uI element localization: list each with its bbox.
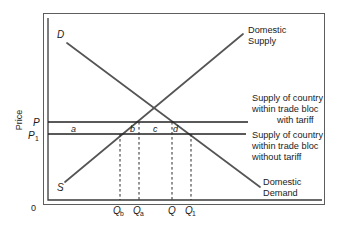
quantity-label-qa-sub: a xyxy=(140,210,144,217)
annotation-domestic-supply: Domestic Supply xyxy=(248,25,287,46)
annotation-domestic-demand-line1: Domestic xyxy=(263,177,302,187)
quantity-label-qb: Q b xyxy=(113,205,124,217)
demand-curve-label: D xyxy=(57,29,64,40)
price-label-p1-main: P xyxy=(28,130,35,141)
region-label-b: b xyxy=(130,124,135,134)
domestic-demand-curve xyxy=(67,43,260,187)
annotation-supply-with-tariff-line3: with tariff xyxy=(276,115,314,125)
origin-label: 0 xyxy=(31,203,36,213)
price-label-p: P xyxy=(33,117,40,128)
region-label-a: a xyxy=(71,124,76,134)
quantity-label-qb-sub: b xyxy=(120,210,124,217)
quantity-label-q: Q xyxy=(168,205,176,216)
annotation-supply-without-tariff: Supply of country within trade bloc with… xyxy=(251,130,323,162)
quantity-label-qa: Q a xyxy=(133,205,144,217)
annotation-supply-with-tariff: Supply of country within trade bloc with… xyxy=(251,93,323,125)
y-axis-label: Price xyxy=(14,110,24,131)
annotation-supply-without-tariff-line3: without tariff xyxy=(251,152,302,162)
annotation-domestic-demand: Domestic Demand xyxy=(263,177,302,198)
annotation-supply-with-tariff-line2: within trade bloc xyxy=(251,104,319,114)
domestic-supply-curve xyxy=(65,34,243,182)
quantity-label-q1: Q 1 xyxy=(185,205,196,217)
tariff-diagram-svg: Price 0 P P 1 Q b Q a Q Q 1 D S a b c d xyxy=(0,0,346,233)
diagram-canvas: Price 0 P P 1 Q b Q a Q Q 1 D S a b c d xyxy=(0,0,346,233)
annotation-domestic-supply-line1: Domestic xyxy=(248,25,287,35)
supply-curve-label: S xyxy=(57,182,64,193)
annotation-supply-without-tariff-line2: within trade bloc xyxy=(251,141,319,151)
quantity-label-q1-sub: 1 xyxy=(192,210,196,217)
annotation-domestic-supply-line2: Supply xyxy=(248,36,276,46)
region-label-c: c xyxy=(153,124,158,134)
annotation-supply-with-tariff-line1: Supply of country xyxy=(252,93,323,103)
price-label-p1-sub: 1 xyxy=(35,135,39,142)
price-label-p1: P 1 xyxy=(28,130,39,142)
annotation-supply-without-tariff-line1: Supply of country xyxy=(252,130,323,140)
annotation-domestic-demand-line2: Demand xyxy=(263,188,298,198)
